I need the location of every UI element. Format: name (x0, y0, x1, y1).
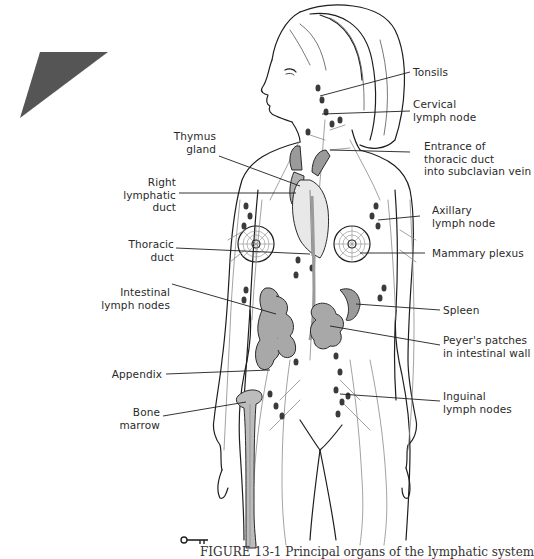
label-spleen: Spleen (443, 304, 479, 317)
figure-caption: FIGURE 13-1 Principal organs of the lymp… (200, 545, 534, 559)
label-bone-marrow: Bone marrow (110, 406, 160, 431)
label-mammary-plexus: Mammary plexus (432, 247, 524, 260)
label-axillary-lymph-node: Axillary lymph node (432, 204, 495, 229)
label-intestinal-lymph-nodes: Intestinal lymph nodes (90, 286, 170, 311)
label-thoracic-duct-entrance: Entrance of thoracic duct into subclavia… (424, 140, 531, 178)
label-peyers-patches: Peyer's patches in intestinal wall (443, 334, 531, 359)
label-cervical-lymph-node: Cervical lymph node (413, 98, 476, 123)
label-inguinal-lymph-nodes: Inguinal lymph nodes (443, 390, 512, 415)
label-thymus-gland: Thymus gland (160, 130, 216, 155)
label-tonsils: Tonsils (413, 66, 448, 79)
label-appendix: Appendix (100, 368, 162, 381)
label-right-lymphatic-duct: Right lymphatic duct (120, 176, 176, 214)
label-thoracic-duct: Thoracic duct (118, 238, 174, 263)
